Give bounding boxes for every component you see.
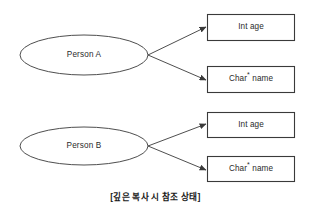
label-person-a: Person A bbox=[20, 51, 148, 59]
connector-person-b-to-int-age bbox=[148, 124, 206, 146]
char-type-text: Char bbox=[229, 74, 247, 83]
connector-person-a-to-char-name bbox=[148, 55, 206, 80]
diagram-graphics bbox=[0, 0, 311, 214]
char-name-text: name bbox=[250, 74, 273, 83]
diagram-caption: [깊은 복사 시 참조 상태] bbox=[0, 190, 311, 202]
diagram-canvas: Person A Int age Char* name Person B Int… bbox=[0, 0, 311, 214]
label-field-b-char-name: Char* name bbox=[207, 165, 295, 173]
char-name-text: name bbox=[250, 164, 273, 173]
label-field-a-char-name: Char* name bbox=[207, 75, 295, 83]
label-field-b-int-age: Int age bbox=[207, 121, 295, 129]
label-field-a-int-age: Int age bbox=[207, 23, 295, 31]
label-person-b: Person B bbox=[20, 142, 148, 150]
connector-person-b-to-char-name bbox=[148, 146, 206, 170]
connector-person-a-to-int-age bbox=[148, 27, 206, 55]
char-type-text: Char bbox=[229, 164, 247, 173]
